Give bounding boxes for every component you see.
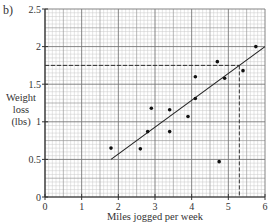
data-point xyxy=(168,108,172,112)
y-axis-label: Weightloss(lbs) xyxy=(6,92,36,128)
y-tick-label: 2 xyxy=(36,41,41,52)
y-tick-label: 0.5 xyxy=(29,154,42,165)
scatter-chart: b) 0123456 00.511.522.5 Miles jogged per… xyxy=(0,0,272,224)
data-point xyxy=(146,130,150,134)
y-tick-label: 1 xyxy=(36,116,41,127)
data-point xyxy=(241,69,245,73)
data-point xyxy=(223,76,227,80)
y-axis-label-line: loss xyxy=(13,104,29,115)
data-point xyxy=(139,147,143,151)
y-tick-label: 1.5 xyxy=(29,79,42,90)
y-axis-label-line: Weight xyxy=(6,92,36,103)
data-point xyxy=(194,75,198,79)
part-label: b) xyxy=(3,3,13,17)
data-point xyxy=(217,160,221,164)
y-tick-label: 2.5 xyxy=(29,4,42,15)
x-tick-label: 0 xyxy=(43,201,48,212)
data-point xyxy=(186,115,190,119)
data-point xyxy=(168,130,172,134)
x-tick-label: 1 xyxy=(79,201,84,212)
data-points xyxy=(109,45,257,164)
x-tick-label: 5 xyxy=(226,201,231,212)
data-point xyxy=(150,106,154,110)
data-point xyxy=(216,60,220,64)
data-point xyxy=(254,45,258,49)
data-point xyxy=(109,146,113,150)
y-axis-label-line: (lbs) xyxy=(11,116,31,128)
x-tick-label: 6 xyxy=(263,201,268,212)
data-point xyxy=(194,97,198,101)
x-axis-label: Miles jogged per week xyxy=(107,211,204,222)
y-tick-label: 0 xyxy=(36,192,41,203)
